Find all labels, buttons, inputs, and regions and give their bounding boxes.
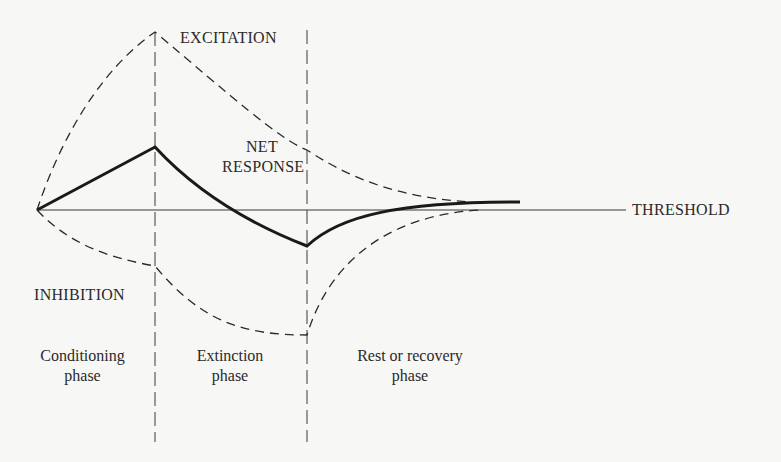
phase-label-extinction: Extinction phase xyxy=(175,346,285,386)
net-response-label-line2: RESPONSE xyxy=(222,157,302,177)
phase-label-line: phase xyxy=(175,366,285,386)
net-response-label-line1: NET xyxy=(222,137,302,157)
phase-label-line: phase xyxy=(335,366,485,386)
phase-label-conditioning: Conditioning phase xyxy=(25,346,140,386)
phase-label-line: Conditioning xyxy=(25,346,140,366)
inhibition-curve xyxy=(37,210,480,335)
phase-label-line: phase xyxy=(25,366,140,386)
inhibition-label: INHIBITION xyxy=(34,285,125,305)
phase-label-line: Rest or recovery xyxy=(335,346,485,366)
excitation-label: EXCITATION xyxy=(180,28,277,48)
threshold-label: THRESHOLD xyxy=(632,200,730,220)
excitation-curve xyxy=(37,32,470,210)
phase-label-rest-recovery: Rest or recovery phase xyxy=(335,346,485,386)
diagram-canvas xyxy=(0,0,781,462)
phase-label-line: Extinction xyxy=(175,346,285,366)
net-response-label: NET RESPONSE xyxy=(222,137,302,177)
